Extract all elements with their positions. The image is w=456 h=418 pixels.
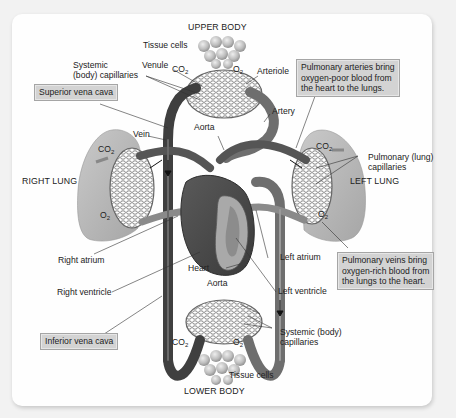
- o2-top-label: O2: [233, 64, 243, 74]
- tissue-cells-bottom-label: Tissue cells: [229, 370, 274, 380]
- heart: [181, 175, 254, 275]
- tissue-cells-top-label: Tissue cells: [143, 40, 188, 50]
- arteriole-label: Arteriole: [257, 66, 289, 76]
- o2-bottom-label: O2: [233, 337, 243, 347]
- right-ventricle-label: Right ventricle: [57, 287, 111, 297]
- left-atrium-label: Left atrium: [280, 252, 321, 262]
- left-ventricle-label: Left ventricle: [278, 286, 327, 296]
- co2-bottom-label: CO2: [172, 337, 188, 347]
- lower-body-title: LOWER BODY: [184, 386, 245, 396]
- co2-top-label: CO2: [172, 64, 188, 74]
- systemic-capillaries-bottom-label-2: capillaries: [280, 337, 318, 347]
- inferior-vena-cava-box: Inferior vena cava: [40, 333, 118, 350]
- o2-right-lung-label: O2: [100, 210, 110, 220]
- aorta-bottom-label: Aorta: [207, 278, 228, 288]
- right-atrium-label: Right atrium: [58, 255, 104, 265]
- right-pulmonary-capillaries: [110, 148, 154, 228]
- pulmonary-capillaries-label-2: capillaries: [368, 162, 406, 172]
- upper-body-title: UPPER BODY: [188, 22, 247, 32]
- left-lung-label: LEFT LUNG: [350, 176, 399, 186]
- aorta-top-label: Aorta: [194, 122, 215, 132]
- co2-right-lung-label: CO2: [98, 144, 114, 154]
- o2-left-lung-label: O2: [318, 209, 328, 219]
- heart-label: Heart: [188, 263, 209, 273]
- vein-label: Vein: [133, 129, 150, 139]
- artery-label: Artery: [272, 106, 295, 116]
- venule-label: Venule: [142, 60, 168, 70]
- pulmonary-arteries-box: Pulmonary arteries bring oxygen-poor blo…: [296, 59, 400, 97]
- right-lung-label: RIGHT LUNG: [22, 176, 77, 186]
- pulmonary-capillaries-label-1: Pulmonary (lung): [368, 152, 433, 162]
- systemic-capillaries-top-label-1: Systemic: [73, 60, 108, 70]
- systemic-capillaries-bottom-label-1: Systemic (body): [280, 327, 342, 337]
- superior-vena-cava-box: Superior vena cava: [34, 84, 118, 101]
- co2-left-lung-label: CO2: [316, 141, 332, 151]
- systemic-capillaries-top-label-2: (body) capillaries: [73, 70, 138, 80]
- pulmonary-veins-box: Pulmonary veins bring oxygen-rich blood …: [337, 252, 434, 290]
